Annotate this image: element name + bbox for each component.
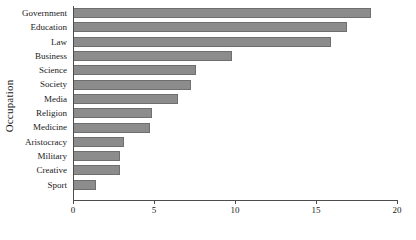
y-axis-tick-label: Law xyxy=(16,35,71,49)
x-axis-tick xyxy=(154,200,155,204)
y-axis-line xyxy=(73,6,74,200)
y-axis-tick-label: Society xyxy=(16,77,71,91)
bar-row xyxy=(73,77,397,91)
x-axis-tick-label: 20 xyxy=(382,205,412,215)
y-axis-tick-label: Creative xyxy=(16,163,71,177)
y-axis-tick-label: Government xyxy=(16,6,71,20)
x-axis-tick xyxy=(316,200,317,204)
y-axis-tick-label: Science xyxy=(16,63,71,77)
bar[interactable] xyxy=(73,165,120,175)
bar-row xyxy=(73,149,397,163)
y-axis-tick-labels: GovernmentEducationLawBusinessScienceSoc… xyxy=(16,6,71,200)
y-axis-tick-label: Media xyxy=(16,92,71,106)
y-axis-tick-label: Education xyxy=(16,20,71,34)
y-axis-tick-label: Military xyxy=(16,149,71,163)
plot-area xyxy=(73,6,397,200)
bar-row xyxy=(73,178,397,192)
bar[interactable] xyxy=(73,22,347,32)
bar-row xyxy=(73,120,397,134)
x-axis-tick xyxy=(397,200,398,204)
y-axis-title-label: Occupation xyxy=(3,80,15,133)
x-axis-tick xyxy=(235,200,236,204)
y-axis-tick-label: Religion xyxy=(16,106,71,120)
bar-row xyxy=(73,49,397,63)
bar-row xyxy=(73,35,397,49)
bar-row xyxy=(73,135,397,149)
bar[interactable] xyxy=(73,123,150,133)
bar-chart: Occupation GovernmentEducationLawBusines… xyxy=(0,0,416,240)
bar[interactable] xyxy=(73,151,120,161)
bar-row xyxy=(73,20,397,34)
bar-row xyxy=(73,163,397,177)
x-axis-tick xyxy=(73,200,74,204)
x-axis-tick-label: 10 xyxy=(220,205,250,215)
x-axis-tick-label: 15 xyxy=(301,205,331,215)
bar[interactable] xyxy=(73,94,178,104)
bar[interactable] xyxy=(73,108,152,118)
bar[interactable] xyxy=(73,180,96,190)
bar-row xyxy=(73,6,397,20)
bar[interactable] xyxy=(73,51,232,61)
bar[interactable] xyxy=(73,65,196,75)
x-axis-tick-label: 0 xyxy=(58,205,88,215)
bar[interactable] xyxy=(73,80,191,90)
y-axis-tick-label: Business xyxy=(16,49,71,63)
bar-row xyxy=(73,63,397,77)
y-axis-tick-label: Aristocracy xyxy=(16,135,71,149)
bar-row xyxy=(73,92,397,106)
bar[interactable] xyxy=(73,137,124,147)
bar[interactable] xyxy=(73,8,371,18)
y-axis-tick-label: Medicine xyxy=(16,120,71,134)
bar[interactable] xyxy=(73,37,331,47)
x-axis-tick-label: 5 xyxy=(139,205,169,215)
bar-row xyxy=(73,106,397,120)
y-axis-tick-label: Sport xyxy=(16,178,71,192)
